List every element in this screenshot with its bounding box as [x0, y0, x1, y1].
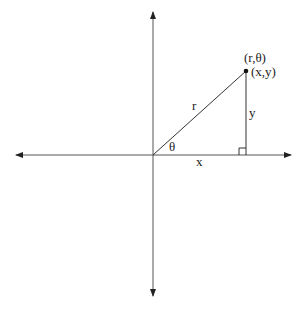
polar-coordinates-diagram: (r,θ) (x,y) r y θ x [0, 0, 302, 309]
cartesian-point-label: (x,y) [251, 64, 276, 79]
radius-label: r [192, 98, 197, 113]
angle-label: θ [169, 139, 175, 154]
right-angle-marker [239, 148, 246, 155]
polar-point-label: (r,θ) [244, 50, 266, 65]
point-dot [244, 69, 249, 74]
radius-line [153, 71, 246, 155]
x-leg-label: x [196, 154, 203, 169]
y-leg-label: y [249, 105, 256, 120]
